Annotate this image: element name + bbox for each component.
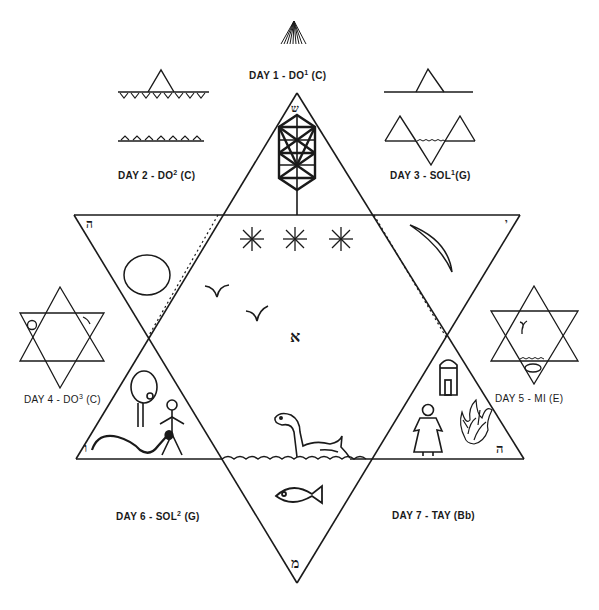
day-5-label: DAY 5 - MI (E) — [495, 393, 563, 404]
hebrew-letter-bottom: מ — [291, 556, 299, 570]
hebrew-letter-upper-right: י — [505, 218, 508, 228]
hexagram-canvas — [0, 0, 599, 610]
hebrew-letter-lower-right: ה — [496, 442, 503, 455]
stars-icon — [240, 227, 353, 251]
land-and-seas-icon — [384, 69, 475, 165]
creation-hexagram-diagram: א ש ה י ו ה מ DAY 1 - DO1 (C) DAY 2 - DO… — [0, 0, 599, 610]
tree-of-life-icon — [279, 115, 315, 215]
hebrew-letter-lower-left: ו — [84, 442, 87, 454]
man-icon — [160, 400, 184, 455]
small-hexagram-day5-icon — [491, 286, 578, 384]
radiating-light-icon — [281, 21, 306, 44]
burning-bush-icon — [461, 400, 492, 444]
day-3-label: DAY 3 - SOL1(G) — [390, 169, 471, 181]
small-hexagram-day4-icon — [20, 287, 104, 388]
crescent-moon-icon — [410, 225, 452, 272]
tree-of-knowledge-icon — [131, 371, 157, 427]
sun-icon — [124, 255, 170, 295]
sea-serpent-icon — [275, 414, 350, 458]
waves — [222, 457, 366, 460]
day-7-label: DAY 7 - TAY (Bb) — [392, 510, 475, 521]
firmament-icon — [118, 70, 209, 141]
hebrew-letter-top: ש — [291, 103, 299, 114]
birds-icon — [205, 285, 268, 321]
day-4-label: DAY 4 - DO3 (C) — [24, 393, 101, 405]
woman-icon — [414, 405, 442, 457]
fish-icon — [276, 486, 322, 503]
day-2-label: DAY 2 - DO2 (C) — [118, 169, 195, 181]
day-6-label: DAY 6 - SOL2 (G) — [116, 510, 200, 522]
hebrew-letter-upper-left: ה — [86, 218, 93, 230]
house-icon — [440, 360, 457, 395]
day-1-label: DAY 1 - DO1 (C) — [249, 69, 326, 81]
upward-triangle — [76, 93, 297, 459]
hebrew-letter-center: א — [290, 329, 300, 345]
serpent-icon — [92, 431, 173, 453]
